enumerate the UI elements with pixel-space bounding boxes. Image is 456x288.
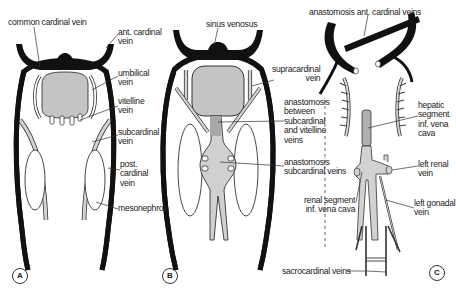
hepatic-segment-ivc	[362, 110, 371, 146]
panel-marker-b: B	[162, 268, 178, 284]
mesonephros-b-right	[234, 124, 258, 216]
label-sinus-venosus: sinus venosus	[206, 20, 257, 29]
venous-development-diagram	[0, 0, 456, 288]
label-hepatic-segment: hepatic segment inf. vena cava	[418, 101, 449, 139]
liver-bud	[42, 72, 88, 118]
label-common-cardinal-vein: common cardinal vein	[8, 18, 87, 27]
mesonephros-right	[85, 150, 105, 210]
panel-a	[16, 27, 120, 270]
label-ant-cardinal-vein: ant. cardinal vein	[118, 28, 162, 47]
mesonephros-left	[25, 150, 45, 210]
panel-marker-a: A	[12, 268, 28, 284]
panel-c	[320, 12, 420, 276]
label-left-gonadal-vein: left gonadal vein	[414, 199, 455, 218]
label-post-cardinal-vein: post. cardinal vein	[120, 160, 148, 188]
label-mesonephros: mesonephros	[118, 204, 167, 213]
label-supracardinal-vein: supracardinal vein	[272, 65, 320, 84]
label-subcardinal-vein: subcardinal vein	[118, 128, 159, 147]
label-renal-segment: renal segment inf. vena cava	[304, 196, 355, 215]
panel-b	[163, 28, 284, 270]
label-anastomosis-subcardinal-veins: anastomosis subcardinal veins	[284, 158, 346, 177]
left-renal-vein	[384, 155, 388, 162]
sacrocardinal-anastomosis	[366, 258, 386, 261]
label-sacrocardinal-veins: sacrocardinal veins	[282, 267, 351, 276]
label-umbilical-vein: umbilical vein	[118, 69, 149, 88]
mesonephros-b-left	[178, 124, 202, 216]
label-anastomosis-ant-cardinal-veins: anastomosis ant. cardinal veins	[309, 8, 421, 17]
label-anastomosis-subcardinal-vitelline: anastomosis between subcardinal and vite…	[284, 98, 330, 145]
label-vitelline-vein: vitelline vein	[118, 97, 144, 116]
panel-marker-c: C	[429, 265, 445, 281]
label-left-renal-vein: left renal vein	[418, 160, 448, 179]
liver-b	[192, 66, 244, 116]
